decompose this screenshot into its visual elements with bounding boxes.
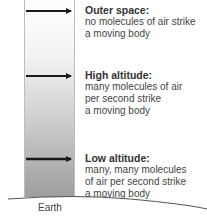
level-title: Outer space: bbox=[85, 4, 196, 16]
level-title: High altitude: bbox=[85, 69, 182, 81]
level-text: a moving body bbox=[85, 188, 187, 200]
level-text: a moving body bbox=[85, 105, 182, 117]
level-title: Low altitude: bbox=[85, 152, 187, 164]
level-text: many molecules of air bbox=[85, 81, 182, 93]
level-text: of air per second strike bbox=[85, 176, 187, 188]
level-text: no molecules of air strike bbox=[85, 16, 196, 28]
label-high-altitude: High altitude: many molecules of air per… bbox=[85, 69, 182, 117]
level-text: per second strike bbox=[85, 93, 182, 105]
label-outer-space: Outer space: no molecules of air strike … bbox=[85, 4, 196, 40]
earth-label: Earth bbox=[38, 202, 62, 213]
level-text: many, many molecules bbox=[85, 164, 187, 176]
label-low-altitude: Low altitude: many, many molecules of ai… bbox=[85, 152, 187, 200]
level-text: a moving body bbox=[85, 28, 196, 40]
